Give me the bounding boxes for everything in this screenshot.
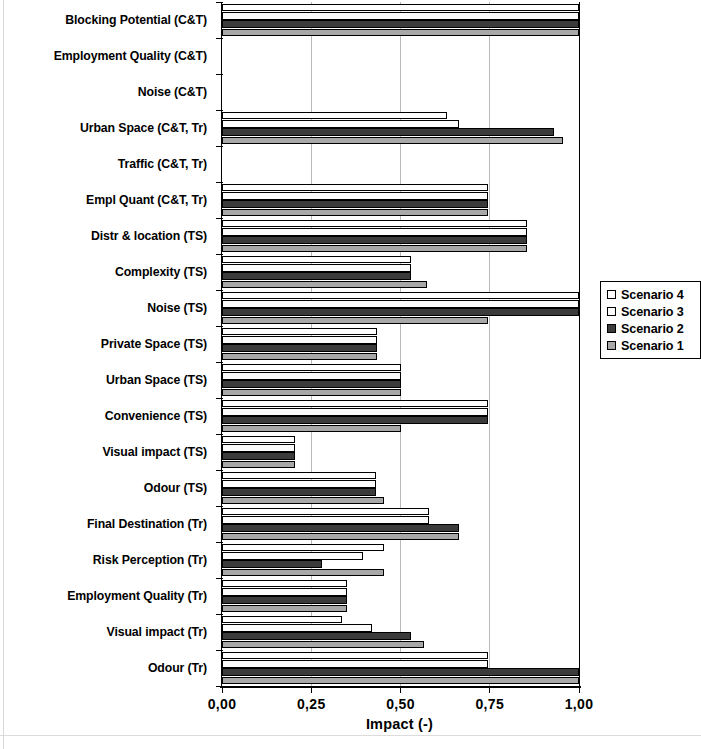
category-axis-label: Employment Quality (Tr) [67,590,207,602]
legend-item-label: Scenario 1 [621,339,684,353]
x-axis-tick [400,686,401,693]
legend: Scenario 4Scenario 3Scenario 2Scenario 1 [600,281,701,359]
bar [222,336,377,344]
bar [222,137,563,145]
legend-item[interactable]: Scenario 3 [607,303,700,320]
bar [222,400,488,408]
category-axis-label: Visual impact (Tr) [107,626,207,638]
y-axis-tick [216,686,223,687]
x-axis-tick [222,686,223,693]
bar [222,200,488,208]
legend-item-label: Scenario 2 [621,322,684,336]
y-axis-tick [216,254,223,255]
category-axis-label: Blocking Potential (C&T) [65,14,207,26]
x-axis-tick [579,686,580,693]
bar [222,353,377,361]
bar [222,364,401,372]
legend-item[interactable]: Scenario 2 [607,320,700,337]
bar [222,245,527,253]
category-axis-label: Noise (TS) [147,302,207,314]
category-axis-label: Risk Perception (Tr) [93,554,207,566]
bar [222,264,411,272]
y-axis-tick [216,74,223,75]
y-axis-tick [216,146,223,147]
gridline [489,2,490,686]
bar [222,533,459,541]
bar [222,380,401,388]
x-axis-tick-label: 0,50 [386,696,414,712]
horizontal-bar-chart: Blocking Potential (C&T)Employment Quali… [0,0,701,749]
bar [222,292,579,300]
bar [222,516,429,524]
legend-item-label: Scenario 4 [621,288,684,302]
legend-item[interactable]: Scenario 4 [607,286,700,303]
bar [222,120,459,128]
bar [222,436,295,444]
legend-item[interactable]: Scenario 1 [607,337,700,354]
y-axis-tick [216,506,223,507]
gridline [400,2,401,686]
bar [222,488,376,496]
plot-inner [222,2,579,686]
x-axis-tick-label: 1,00 [565,696,593,712]
category-axis: Blocking Potential (C&T)Employment Quali… [0,2,215,686]
y-axis-tick [216,110,223,111]
bar [222,344,377,352]
category-axis-label: Urban Space (C&T, Tr) [80,122,207,134]
category-axis-label: Noise (C&T) [138,86,207,98]
bar [222,508,429,516]
y-axis-tick [216,182,223,183]
y-axis-tick [216,290,223,291]
x-axis-tick [489,686,490,693]
bar [222,209,488,217]
y-axis-tick [216,542,223,543]
bar [222,524,459,532]
bar [222,580,347,588]
category-axis-label: Distr & location (TS) [91,230,207,242]
bar [222,588,347,596]
y-axis-tick [216,650,223,651]
legend-swatch-icon [607,307,616,316]
x-axis-tick [311,686,312,693]
bar [222,281,427,289]
legend-swatch-icon [607,324,616,333]
bar [222,425,401,433]
category-axis-label: Empl Quant (C&T, Tr) [86,194,207,206]
bar [222,220,527,228]
bar [222,444,295,452]
bar [222,192,488,200]
bar [222,641,424,649]
category-axis-label: Visual impact (TS) [102,446,207,458]
bar [222,328,377,336]
bar [222,497,384,505]
y-axis-tick [216,218,223,219]
category-axis-label: Odour (Tr) [148,662,207,674]
page-edge-line-bottom [0,735,701,736]
bar [222,408,488,416]
bar [222,480,376,488]
plot-area: 0,000,250,500,751,00 [221,2,580,686]
category-axis-label: Complexity (TS) [115,266,207,278]
bar [222,416,488,424]
y-axis-tick [216,614,223,615]
bar [222,4,579,12]
bar [222,228,527,236]
bar [222,272,411,280]
bar [222,20,579,28]
legend-swatch-icon [607,290,616,299]
bar [222,128,554,136]
bar [222,616,342,624]
bar [222,256,411,264]
category-axis-label: Employment Quality (C&T) [54,50,207,62]
y-axis-tick [216,326,223,327]
bar [222,560,322,568]
x-axis-tick-label: 0,00 [208,696,236,712]
bar [222,605,347,613]
bar [222,552,363,560]
category-axis-label: Final Destination (Tr) [87,518,207,530]
bar [222,12,579,20]
x-axis-tick-label: 0,25 [297,696,325,712]
bar [222,452,295,460]
x-axis-title: Impact (-) [221,716,578,732]
bar [222,372,401,380]
